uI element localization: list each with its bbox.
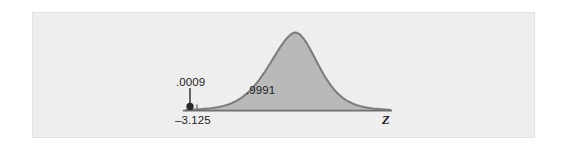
axis-variable-label: Z: [382, 114, 390, 127]
normal-distribution-plot: [0, 0, 566, 148]
cutoff-value-label: –3.125: [175, 115, 211, 127]
shaded-area-right-of-cutoff: [190, 33, 390, 111]
body-probability-label: .9991: [246, 85, 275, 97]
figure-root: .0009 .9991 –3.125 Z: [0, 0, 566, 148]
tail-probability-label: .0009: [176, 77, 205, 89]
